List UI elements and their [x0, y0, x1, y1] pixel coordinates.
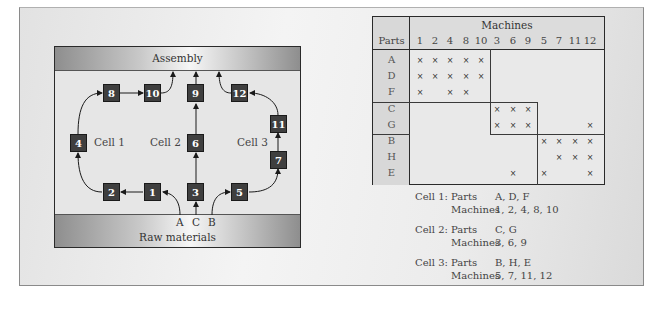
arrow-2-to-4 [78, 153, 102, 192]
machine-1: 1 [144, 183, 161, 201]
legend-cell-2-name: Cell 2: [415, 224, 448, 235]
parts-separator-1 [373, 102, 410, 103]
arrow-4-to-8 [78, 93, 102, 134]
matrix-mark: × [521, 121, 535, 130]
matrix-mark: × [443, 56, 457, 65]
machine-col-2: 2 [428, 35, 442, 46]
matrix-mark: × [474, 72, 488, 81]
arrow-a-to-1 [163, 192, 180, 215]
arrow-11-to-12 [250, 93, 278, 115]
part-row-g: G [373, 119, 410, 130]
machine-10: 10 [144, 84, 161, 102]
parts-header-label: Parts [373, 35, 410, 46]
matrix-mark: × [443, 72, 457, 81]
matrix-mark: × [552, 137, 566, 146]
machines-title: Machines [410, 19, 604, 31]
part-row-a: A [373, 54, 410, 65]
matrix-mark: × [474, 56, 488, 65]
part-row-e: E [373, 167, 410, 178]
machine-11: 11 [270, 115, 287, 133]
matrix-mark: × [583, 153, 597, 162]
matrix-mark: × [413, 88, 427, 97]
machine-col-3: 3 [490, 35, 504, 46]
matrix-mark: × [506, 105, 520, 114]
legend-cell-1-parts: A, D, F [495, 191, 530, 202]
machine-5: 5 [231, 183, 248, 201]
part-row-d: D [373, 70, 410, 81]
part-row-c: C [373, 103, 410, 114]
legend-cell-3-parts: B, H, E [495, 257, 531, 268]
part-row-f: F [373, 86, 410, 97]
matrix-mark: × [490, 121, 504, 130]
legend-cell-2-parts: C, G [495, 224, 517, 235]
cell-layout-diagram: Assembly A C B Raw materials [54, 46, 301, 248]
matrix-mark: × [583, 137, 597, 146]
arrow-b-to-5 [212, 192, 230, 215]
parts-header-cell: Parts [373, 17, 410, 50]
legend-cell-1-machines-label: Machines [451, 204, 500, 215]
matrix-mark: × [413, 72, 427, 81]
matrix-mark: × [428, 56, 442, 65]
legend-cell-1-machines: 1, 2, 4, 8, 10 [495, 204, 559, 215]
arrow-10-to-assembly [161, 72, 173, 93]
cell-1-label: Cell 1 [94, 136, 125, 148]
legend-cell-2-machines: 3, 6, 9 [495, 237, 527, 248]
legend-cell-3-machines: 5, 7, 11, 12 [495, 270, 552, 281]
cell-3-label: Cell 3 [237, 136, 268, 148]
machine-col-10: 10 [474, 35, 488, 46]
matrix-mark: × [521, 105, 535, 114]
machine-col-4: 4 [443, 35, 457, 46]
arrow-5-to-7 [249, 169, 278, 192]
machine-2: 2 [103, 183, 120, 201]
legend-cell-2-machines-label: Machines [451, 237, 500, 248]
matrix-mark: × [459, 56, 473, 65]
part-row-h: H [373, 151, 410, 162]
matrix-mark: × [552, 153, 566, 162]
machine-col-11: 11 [568, 35, 582, 46]
machine-7: 7 [270, 151, 287, 169]
machine-4: 4 [70, 134, 87, 152]
machine-col-9: 9 [521, 35, 535, 46]
machine-part-matrix: Machines Parts Parts 1 2 4 8 10 3 6 9 5 … [372, 16, 605, 185]
cell-2-label: Cell 2 [150, 136, 181, 148]
machine-9: 9 [187, 84, 204, 102]
machine-col-5: 5 [537, 35, 551, 46]
matrix-mark: × [537, 169, 551, 178]
matrix-mark: × [490, 105, 504, 114]
machine-3: 3 [187, 183, 204, 201]
machine-col-1: 1 [413, 35, 427, 46]
legend-cell-1-name: Cell 1: [415, 191, 448, 202]
machine-col-7: 7 [552, 35, 566, 46]
matrix-mark: × [506, 121, 520, 130]
parts-separator-2 [373, 134, 410, 135]
legend-cell-3-machines-label: Machines [451, 270, 500, 281]
legend-cell-3-parts-label: Parts [451, 257, 477, 268]
matrix-mark: × [537, 137, 551, 146]
matrix-mark: × [568, 153, 582, 162]
matrix-mark: × [443, 88, 457, 97]
machine-col-8: 8 [459, 35, 473, 46]
machine-12: 12 [231, 84, 248, 102]
matrix-mark: × [459, 88, 473, 97]
legend-cell-1-parts-label: Parts [451, 191, 477, 202]
machine-6: 6 [187, 134, 204, 152]
part-row-b: B [373, 135, 410, 146]
matrix-mark: × [459, 72, 473, 81]
arrow-12-to-assembly [219, 72, 231, 93]
matrix-mark: × [506, 169, 520, 178]
matrix-mark: × [583, 121, 597, 130]
matrix-mark: × [413, 56, 427, 65]
machine-col-6: 6 [506, 35, 520, 46]
machine-8: 8 [103, 84, 120, 102]
matrix-mark: × [568, 137, 582, 146]
legend-cell-3-name: Cell 3: [415, 257, 448, 268]
machine-col-12: 12 [583, 35, 597, 46]
legend-cell-2-parts-label: Parts [451, 224, 477, 235]
matrix-mark: × [583, 169, 597, 178]
matrix-mark: × [428, 72, 442, 81]
